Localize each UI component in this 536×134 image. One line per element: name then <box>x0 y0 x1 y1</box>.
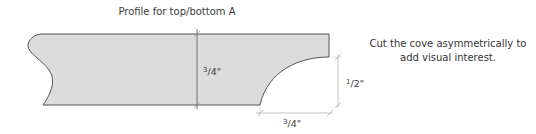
note-line-2: add visual interest. <box>400 52 496 63</box>
diagram-title: Profile for top/bottom A <box>118 6 235 17</box>
profile-shape <box>28 34 329 105</box>
cove-height-unit: " <box>360 78 364 89</box>
profile-diagram: Profile for top/bottom A 3/4" 1/2" 3/4" … <box>0 0 536 134</box>
cove-height-label: 1/2" <box>346 78 364 89</box>
cove-width-label: 3/4" <box>283 118 301 129</box>
svg-text:1/2": 1/2" <box>346 78 364 89</box>
cove-width-unit: " <box>297 118 301 129</box>
thickness-unit: " <box>217 66 221 77</box>
svg-text:3/4": 3/4" <box>283 118 301 129</box>
note-line-1: Cut the cove asymmetrically to <box>370 38 527 49</box>
